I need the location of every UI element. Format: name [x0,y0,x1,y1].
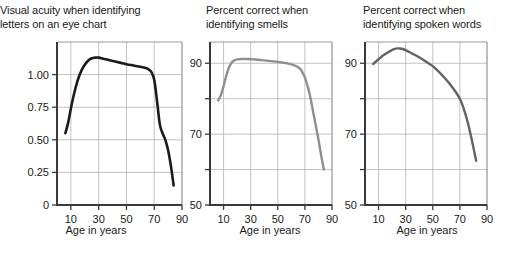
chart-panel-spoken-words: Percent correct when identifying spoken … [323,0,512,258]
y-tick-label: 0.75 [28,101,49,113]
x-axis-label: Age in years [363,224,491,236]
y-tick-label: 0 [43,199,49,211]
y-tick-label: 50 [190,199,202,211]
plot-area-smells: 5070901030507090 [168,0,340,258]
x-axis-label: Age in years [0,224,192,236]
data-series-line [373,48,476,160]
data-series-line [218,59,324,170]
y-tick-label: 90 [190,57,202,69]
chart-panel-visual-acuity: Visual acuity when identifying letters o… [0,0,192,258]
three-panel-line-chart-figure: Visual acuity when identifying letters o… [0,0,512,258]
y-tick-label: 70 [345,128,357,140]
y-tick-label: 90 [345,57,357,69]
data-series-line [65,57,173,185]
chart-panel-smells: Percent correct when identifying smells … [168,0,340,258]
y-tick-label: 0.50 [28,134,49,146]
y-tick-label: 70 [190,128,202,140]
plot-area-spoken-words: 5070901030507090 [323,0,512,258]
y-tick-label: 0.25 [28,166,49,178]
x-axis-label: Age in years [206,224,334,236]
plot-area-visual-acuity: 00.250.500.751.001030507090 [0,0,192,258]
y-tick-label: 50 [345,199,357,211]
y-tick-label: 1.00 [28,69,49,81]
